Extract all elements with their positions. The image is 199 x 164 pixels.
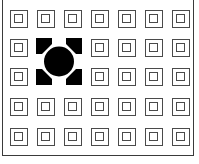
inner-square-icon: [68, 102, 77, 111]
inner-square-icon: [41, 102, 50, 111]
grid-cell[interactable]: [172, 68, 190, 86]
grid-cell[interactable]: [37, 128, 55, 146]
grid-cell[interactable]: [172, 128, 190, 146]
inner-square-icon: [95, 14, 104, 23]
inner-square-icon: [14, 132, 23, 141]
grid-cell[interactable]: [37, 98, 55, 116]
selection-marker-icon[interactable]: [36, 38, 82, 85]
grid-cell[interactable]: [10, 68, 28, 86]
inner-square-icon: [122, 43, 131, 52]
inner-square-icon: [14, 43, 23, 52]
grid-cell[interactable]: [145, 98, 163, 116]
inner-square-icon: [149, 72, 158, 81]
inner-square-icon: [95, 102, 104, 111]
inner-square-icon: [14, 14, 23, 23]
grid-cell[interactable]: [118, 68, 136, 86]
grid-cell[interactable]: [10, 10, 28, 28]
inner-square-icon: [14, 72, 23, 81]
inner-square-icon: [176, 72, 185, 81]
grid-cell[interactable]: [145, 10, 163, 28]
grid-cell[interactable]: [91, 39, 109, 57]
grid-cell[interactable]: [10, 128, 28, 146]
inner-square-icon: [122, 102, 131, 111]
inner-square-icon: [68, 14, 77, 23]
grid-cell[interactable]: [91, 128, 109, 146]
inner-square-icon: [176, 43, 185, 52]
grid-cell[interactable]: [118, 128, 136, 146]
grid-cell[interactable]: [64, 10, 82, 28]
grid-cell[interactable]: [118, 98, 136, 116]
inner-square-icon: [68, 132, 77, 141]
grid-cell[interactable]: [172, 98, 190, 116]
grid-cell[interactable]: [172, 39, 190, 57]
inner-square-icon: [95, 72, 104, 81]
grid-cell[interactable]: [64, 128, 82, 146]
inner-square-icon: [176, 14, 185, 23]
inner-square-icon: [41, 132, 50, 141]
grid-cell[interactable]: [172, 10, 190, 28]
grid-cell[interactable]: [64, 98, 82, 116]
inner-square-icon: [176, 102, 185, 111]
grid-cell[interactable]: [118, 39, 136, 57]
inner-square-icon: [149, 14, 158, 23]
grid-cell[interactable]: [118, 10, 136, 28]
inner-square-icon: [14, 102, 23, 111]
inner-square-icon: [176, 132, 185, 141]
inner-square-icon: [149, 132, 158, 141]
grid-cell[interactable]: [10, 39, 28, 57]
grid-cell[interactable]: [10, 98, 28, 116]
inner-square-icon: [95, 132, 104, 141]
inner-square-icon: [149, 102, 158, 111]
inner-square-icon: [41, 14, 50, 23]
grid-cell[interactable]: [91, 68, 109, 86]
grid-cell[interactable]: [91, 10, 109, 28]
grid-cell[interactable]: [145, 128, 163, 146]
inner-square-icon: [122, 132, 131, 141]
inner-square-icon: [122, 72, 131, 81]
grid-cell[interactable]: [37, 10, 55, 28]
grid-cell[interactable]: [91, 98, 109, 116]
inner-square-icon: [95, 43, 104, 52]
inner-square-icon: [122, 14, 131, 23]
inner-square-icon: [149, 43, 158, 52]
grid-cell[interactable]: [145, 39, 163, 57]
grid-cell[interactable]: [145, 68, 163, 86]
